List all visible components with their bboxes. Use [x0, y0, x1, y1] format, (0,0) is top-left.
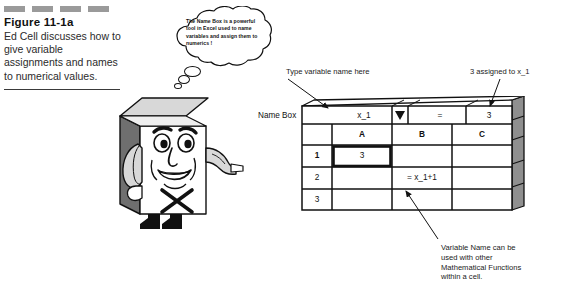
column-header-c[interactable]: C	[454, 129, 510, 139]
name-box-value[interactable]: x_1	[340, 110, 388, 120]
row-header-1[interactable]: 1	[303, 150, 331, 160]
annotation-type-variable: Type variable name here	[286, 67, 370, 77]
ed-cell-character	[112, 86, 244, 232]
formula-value[interactable]: 3	[468, 110, 510, 120]
spreadsheet-widget[interactable]: x_1 = 3 A B C 1 2 3 3 = x_1+1	[300, 96, 532, 214]
column-header-a[interactable]: A	[334, 129, 390, 139]
thought-bubble: The Name Box is a powerful tool in Excel…	[172, 6, 277, 68]
column-header-b[interactable]: B	[394, 129, 450, 139]
cell-b2[interactable]: = x_1+1	[394, 172, 450, 182]
figure-title: Figure 11-1a	[4, 16, 122, 29]
figure-description: Ed Cell discusses how to give variable a…	[4, 30, 122, 83]
row-header-3[interactable]: 3	[303, 194, 331, 204]
deco-bar	[4, 6, 25, 12]
annotation-three-assigned: 3 assigned to x_1	[470, 67, 530, 77]
figure-caption-block: Figure 11-1a Ed Cell discusses how to gi…	[4, 6, 122, 90]
decorative-bars	[4, 6, 122, 12]
cell-a1[interactable]: 3	[334, 150, 390, 160]
thought-bubble-text: The Name Box is a powerful tool in Excel…	[186, 18, 264, 48]
row-header-2[interactable]: 2	[303, 172, 331, 182]
deco-bar	[88, 6, 109, 12]
formula-equals: =	[418, 110, 462, 120]
deco-bar	[32, 6, 53, 12]
annotation-variable-name-note: Variable Name can be used with other Mat…	[441, 243, 523, 282]
caption-divider	[4, 89, 120, 90]
deco-bar	[60, 6, 81, 12]
name-box-label: Name Box	[258, 111, 296, 120]
